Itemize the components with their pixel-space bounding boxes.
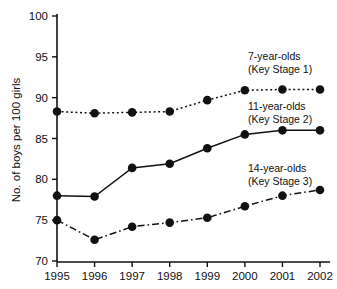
y-tick-label: 80 [35,173,48,185]
data-point [53,107,62,116]
x-tick-label: 1997 [119,270,145,282]
y-tick-label: 75 [35,214,48,226]
x-tick-label: 1998 [157,270,183,282]
y-tick-label: 100 [29,10,48,22]
series-annotation-sublabel: (Key Stage 1) [248,63,312,75]
data-point [128,164,137,173]
series-annotations: 7-year-olds(Key Stage 1)11-year-olds(Key… [248,50,312,187]
x-axis-ticks: 19951996199719981999200020012002 [44,262,333,282]
data-point [165,160,174,169]
data-point [128,108,137,117]
data-point [90,192,99,201]
data-point [165,218,174,227]
data-point [278,191,287,200]
y-tick-label: 85 [35,133,48,145]
data-point [316,126,325,135]
data-point [128,222,137,231]
series-annotation-name: 14-year-olds [248,162,306,174]
data-point [90,235,99,244]
x-tick-label: 1999 [194,270,220,282]
data-point [278,85,287,94]
series-annotation-name: 7-year-olds [248,50,301,62]
data-point [241,130,250,139]
x-tick-label: 2002 [307,270,333,282]
y-tick-label: 90 [35,92,48,104]
series-annotation-3: 14-year-olds(Key Stage 3) [248,162,312,187]
data-point [203,96,212,105]
data-point [53,216,62,225]
y-tick-label: 95 [35,51,48,63]
data-point [165,107,174,116]
series-annotation-name: 11-year-olds [248,100,306,112]
data-point [241,202,250,211]
y-tick-label: 70 [35,255,48,267]
series-annotation-sublabel: (Key Stage 2) [248,113,312,125]
y-axis-ticks: 707580859095100 [29,10,57,267]
x-tick-label: 1995 [44,270,70,282]
data-point [278,126,287,135]
chart-container: 707580859095100 199519961997199819992000… [0,0,337,289]
data-point [241,86,250,95]
data-point [316,85,325,94]
y-axis-title: No. of boys per 100 girls [10,77,22,202]
series-annotation-sublabel: (Key Stage 3) [248,175,312,187]
data-point [316,186,325,195]
x-tick-label: 1996 [82,270,108,282]
data-point [90,109,99,118]
data-point [203,213,212,222]
x-tick-label: 2000 [232,270,258,282]
data-point [53,191,62,200]
series-annotation-1: 7-year-olds(Key Stage 1) [248,50,312,75]
series-annotation-2: 11-year-olds(Key Stage 2) [248,100,312,125]
x-tick-label: 2001 [270,270,296,282]
line-chart: 707580859095100 199519961997199819992000… [0,0,337,289]
data-point [203,144,212,153]
